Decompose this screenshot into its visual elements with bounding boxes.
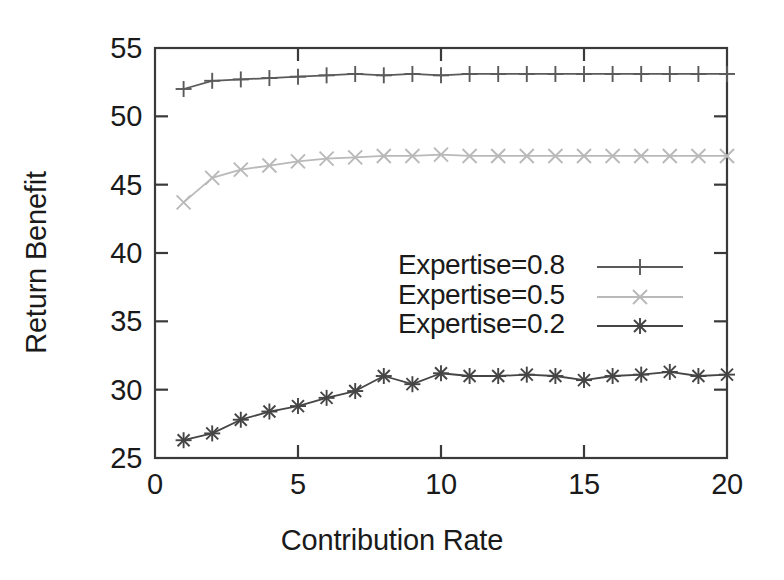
x-tick-label: 20 [711,468,743,501]
y-axis-title: Return Benefit [20,123,53,403]
y-tick-label: 55 [70,32,142,65]
x-tick-label: 0 [147,468,163,501]
y-tick-label: 35 [70,305,142,338]
y-tick-label: 50 [70,100,142,133]
y-tick-label: 25 [70,442,142,475]
legend-sample-lines [597,259,683,334]
legend-sample-2 [597,290,683,304]
chart-figure: 25303540455055 05101520 Contribution Rat… [0,0,784,580]
x-tick-label: 5 [290,468,306,501]
legend-sample-1 [597,259,683,275]
series-2 [177,148,734,210]
y-tick-label: 40 [70,237,142,270]
x-tick-label: 10 [425,468,457,501]
x-tick-label: 15 [568,468,600,501]
legend-entry-label: Expertise=0.5 [398,279,565,311]
y-tick-label: 45 [70,168,142,201]
series-1 [176,66,735,97]
legend-entry-label: Expertise=0.2 [398,308,565,340]
legend-entry-label: Expertise=0.8 [398,249,565,281]
legend-sample-3 [597,318,683,334]
plot-area [0,0,784,580]
series-line [184,74,727,89]
series-3 [176,364,735,448]
y-tick-label: 30 [70,373,142,406]
x-axis-title: Contribution Rate [0,524,784,557]
